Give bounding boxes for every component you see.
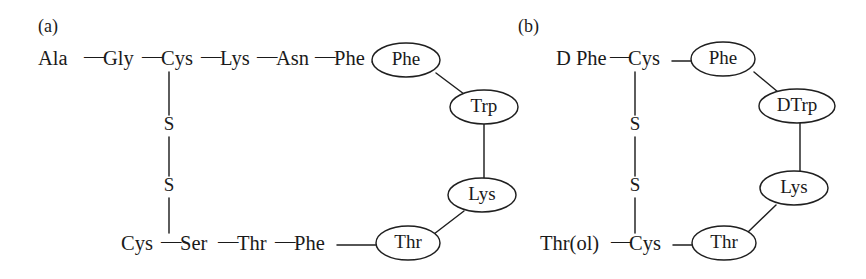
panel-a-node-trp[interactable]: Trp [450, 90, 518, 124]
node-label-dtrp: DTrp [777, 94, 818, 115]
panel-a-chain-bottom-residue-3: Phe [294, 232, 325, 254]
figure-root: (a) Ala — Gly — Cys — Lys — Asn — Phe S … [0, 0, 866, 279]
panel-b-chain-top-residue-1: Cys [628, 47, 660, 70]
node-label-phe: Phe [392, 48, 421, 69]
panel-b-chain-bottom-residue-1: Cys [629, 232, 661, 255]
panel-a-chain-bottom-sep-2: — [274, 230, 296, 252]
panel-b-link-phe-dtrp [754, 72, 778, 92]
panel-a-chain-bottom-residue-2: Thr [237, 232, 267, 254]
panel-a-bridge-atom-0: S [164, 113, 175, 134]
panel-a-node-lys[interactable]: Lys [448, 178, 516, 212]
panel-a-link-lys-thr [434, 211, 464, 234]
panel-a-label: (a) [38, 16, 58, 37]
panel-b-node-thr[interactable]: Thr [692, 226, 756, 260]
panel-a-chain-top-sep-1: — [141, 45, 163, 67]
panel-a-node-phe[interactable]: Phe [372, 43, 440, 77]
panel-b-bridge-atom-0: S [630, 113, 641, 134]
panel-a-chain-top-sep-3: — [256, 45, 278, 67]
panel-b-node-lys[interactable]: Lys [760, 171, 828, 205]
node-label-lys: Lys [468, 183, 495, 204]
node-label-trp: Trp [471, 95, 498, 116]
panel-a-chain-top-sep-4: — [314, 45, 336, 67]
panel-a-chain-bottom-residue-0: Cys [121, 232, 153, 255]
panel-b-node-phe[interactable]: Phe [691, 42, 755, 76]
node-label-phe: Phe [709, 47, 738, 68]
node-label-thr: Thr [394, 231, 422, 252]
panel-a-chain-top-residue-5: Phe [334, 47, 365, 69]
panel-a-chain-top-residue-3: Lys [220, 47, 250, 70]
panel-a-chain-bottom-sep-1: — [217, 230, 239, 252]
peptide-structure-diagram: (a) Ala — Gly — Cys — Lys — Asn — Phe S … [0, 0, 866, 279]
panel-a-chain-bottom-residue-1: Ser [180, 232, 208, 254]
panel-a-link-phe-trp [436, 73, 464, 94]
panel-a-chain-bottom-sep-0: — [160, 230, 182, 252]
panel-b-link-lys-thr [747, 205, 776, 233]
panel-b-label: (b) [518, 16, 539, 37]
panel-b-bridge-atom-1: S [630, 174, 641, 195]
panel-b-chain-top-residue-0: D Phe [556, 47, 607, 69]
panel-a-chain-top-residue-4: Asn [276, 47, 309, 69]
panel-a-chain-top-sep-2: — [200, 45, 222, 67]
panel-a-chain-top-residue-1: Gly [103, 47, 135, 70]
panel-b: (b) D Phe — Cys S S Thr(ol) — Cys [518, 16, 835, 260]
panel-a-chain-top-sep-0: — [83, 45, 105, 67]
panel-a-chain-top-residue-0: Ala [38, 47, 68, 69]
panel-a: (a) Ala — Gly — Cys — Lys — Asn — Phe S … [38, 16, 518, 260]
node-label-thr: Thr [710, 231, 738, 252]
panel-b-node-dtrp[interactable]: DTrp [759, 89, 835, 123]
panel-b-chain-bottom-residue-0: Thr(ol) [540, 232, 599, 255]
panel-a-chain-top-residue-2: Cys [161, 47, 193, 70]
panel-a-node-thr[interactable]: Thr [376, 226, 440, 260]
node-label-lys: Lys [780, 176, 807, 197]
panel-a-bridge-atom-1: S [164, 174, 175, 195]
